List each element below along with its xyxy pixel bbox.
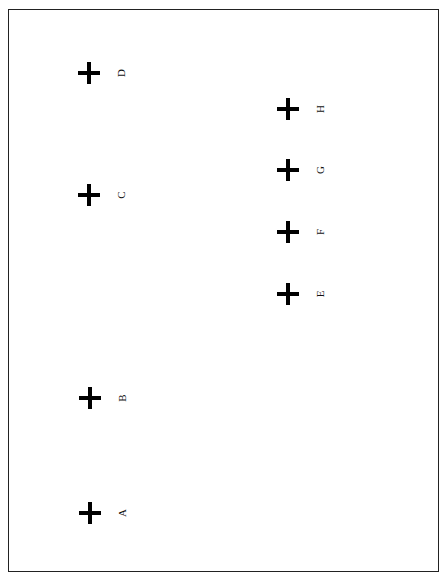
plus-icon — [277, 98, 299, 120]
plus-icon — [79, 387, 101, 409]
plus-icon — [78, 184, 100, 206]
marker-label-e: E — [315, 291, 326, 298]
marker-label-c: C — [116, 191, 127, 198]
plus-icon — [277, 159, 299, 181]
marker-label-h: H — [315, 105, 326, 113]
marker-label-d: D — [116, 69, 127, 77]
plus-icon — [79, 502, 101, 524]
plus-icon — [277, 221, 299, 243]
plus-icon — [78, 62, 100, 84]
marker-label-f: F — [315, 229, 326, 235]
marker-label-a: A — [117, 509, 128, 517]
page-frame — [8, 9, 439, 572]
plus-icon — [277, 283, 299, 305]
marker-label-g: G — [315, 166, 326, 174]
marker-label-b: B — [117, 394, 128, 401]
